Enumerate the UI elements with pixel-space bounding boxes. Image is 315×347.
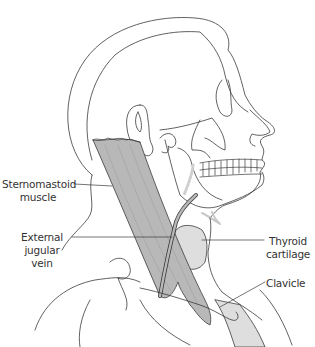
label-clavicle: Clavicle — [266, 277, 305, 290]
rib — [140, 300, 190, 345]
sternum-shape — [215, 300, 265, 347]
label-sternomastoid-muscle: Sternomastoid muscle — [2, 178, 74, 204]
chest-outline — [260, 290, 292, 345]
label-line: Sternomastoid — [2, 178, 74, 191]
label-line: Thyroid — [262, 235, 314, 248]
label-external-jugular-vein: External jugular vein — [14, 231, 70, 270]
teeth — [200, 159, 262, 177]
arm-outline — [79, 300, 90, 347]
label-line: cartilage — [262, 248, 314, 261]
label-thyroid-cartilage: Thyroid cartilage — [262, 235, 314, 261]
styloid — [184, 165, 193, 195]
label-line: vein — [14, 257, 70, 270]
label-line: External — [14, 231, 70, 244]
shoulder — [35, 278, 140, 330]
orbit — [216, 80, 232, 116]
anatomy-figure: Sternomastoid muscle External jugular ve… — [0, 0, 315, 347]
leader-sternomastoid — [74, 184, 112, 186]
hyoid — [202, 212, 220, 224]
leader-clavicle — [220, 282, 265, 307]
label-line: jugular — [14, 244, 70, 257]
label-line: Clavicle — [266, 277, 305, 290]
head-outline — [68, 17, 275, 218]
scapula — [110, 258, 130, 310]
label-line: muscle — [2, 191, 74, 204]
head-neck-illustration — [0, 0, 315, 347]
